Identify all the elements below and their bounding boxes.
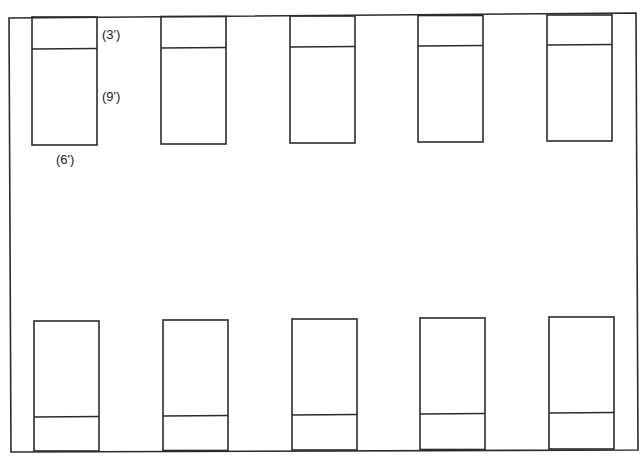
bed-top-3-headboard-divider	[290, 47, 355, 48]
bed-bottom-3	[292, 319, 357, 450]
label-bed-width: (6')	[56, 152, 74, 167]
bed-bottom-4-footboard-divider	[420, 414, 485, 415]
bed-bottom-1	[34, 321, 99, 451]
bed-bottom-5	[549, 317, 614, 449]
bed-top-4	[418, 16, 483, 143]
bed-bottom-1-footboard-divider	[34, 417, 99, 418]
bed-bottom-4	[420, 318, 485, 450]
bed-bottom-2	[163, 320, 228, 451]
bed-top-3	[290, 16, 355, 143]
bed-bottom-3-footboard-divider	[292, 415, 357, 416]
bed-bottom-2-footboard-divider	[163, 416, 228, 417]
bed-bottom-5-footboard-divider	[549, 413, 614, 414]
bed-top-2-headboard-divider	[161, 48, 226, 49]
bed-top-5-headboard-divider	[547, 45, 612, 46]
bed-top-4-headboard-divider	[418, 46, 483, 47]
label-headboard-section: (3')	[102, 27, 120, 42]
label-bed-length: (9')	[102, 89, 120, 104]
bed-top-1-headboard-divider	[32, 49, 97, 50]
bed-top-1	[32, 17, 97, 145]
bed-top-5	[547, 15, 612, 141]
bed-top-2	[161, 17, 226, 145]
room-outline	[9, 13, 638, 452]
floor-plan: (3') (9') (6')	[0, 0, 643, 456]
